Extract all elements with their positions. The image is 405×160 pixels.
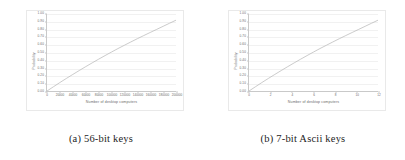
- plot-area-b: 0.000.100.200.300.400.500.600.700.800.90…: [248, 14, 378, 92]
- plot-area-a: 0.000.100.200.300.400.500.600.700.800.90…: [46, 14, 176, 92]
- chart-frame-b: Probability 0.000.100.200.300.400.500.60…: [215, 6, 391, 116]
- figure-row: Probability 0.000.100.200.300.400.500.60…: [0, 0, 405, 160]
- subfigure-caption-a: (a) 56-bit keys: [0, 133, 202, 144]
- chart-frame-a: Probability 0.000.100.200.300.400.500.60…: [13, 6, 189, 116]
- subfigure-b: Probability 0.000.100.200.300.400.500.60…: [202, 0, 404, 160]
- y-axis-title-a: Probability: [32, 52, 36, 69]
- y-axis-title-b: Probability: [234, 52, 238, 69]
- line-series-b: [249, 14, 378, 91]
- subfigure-caption-b: (b) 7-bit Ascii keys: [202, 133, 404, 144]
- line-series-a: [47, 14, 176, 91]
- subfigure-a: Probability 0.000.100.200.300.400.500.60…: [0, 0, 202, 160]
